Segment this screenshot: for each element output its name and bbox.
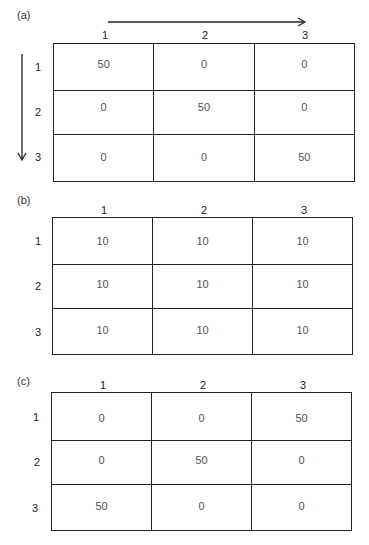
- panel-label: (a): [17, 9, 30, 21]
- row-header: 1: [35, 235, 41, 247]
- cell: 50: [254, 135, 354, 182]
- table-row: 10 10 10: [53, 265, 353, 309]
- cell: 0: [254, 91, 354, 135]
- column-header: 1: [101, 204, 107, 216]
- cell: 10: [153, 265, 253, 309]
- cell: 10: [253, 309, 353, 355]
- cell: 10: [253, 265, 353, 309]
- column-header: 2: [201, 204, 207, 216]
- column-header: 1: [100, 379, 106, 391]
- cell: 50: [252, 393, 352, 441]
- cell: 10: [153, 218, 253, 265]
- matrix-table: 10 10 10 10 10 10 10 10 10: [52, 217, 353, 355]
- cell: 0: [52, 393, 152, 441]
- row-header: 3: [35, 151, 41, 163]
- row-header: 1: [33, 411, 39, 423]
- right-arrow-icon: [108, 17, 308, 27]
- cell: 0: [154, 135, 254, 182]
- down-arrow-icon: [17, 54, 27, 162]
- table-row: 50 0 0: [54, 44, 355, 91]
- matrix-table: 50 0 0 0 50 0 0 0 50: [53, 43, 355, 182]
- panel-label: (c): [17, 375, 30, 387]
- cell: 50: [54, 44, 154, 91]
- cell: 0: [152, 393, 252, 441]
- cell: 50: [52, 485, 152, 531]
- column-header: 3: [300, 379, 306, 391]
- cell: 10: [153, 309, 253, 355]
- row-header: 3: [32, 502, 38, 514]
- cell: 0: [54, 135, 154, 182]
- cell: 50: [154, 91, 254, 135]
- panel-b: (b) 1 2 3 1 2 3 10 10 10 10 10 10 10 10 …: [0, 185, 369, 365]
- table-row: 0 0 50: [52, 393, 352, 441]
- row-header: 1: [35, 61, 41, 73]
- cell: 10: [53, 218, 153, 265]
- panel-c: (c) 1 2 3 1 2 3 0 0 50 0 50 0 50 0 0: [0, 365, 369, 545]
- column-header: 1: [102, 29, 108, 41]
- table-row: 50 0 0: [52, 485, 352, 531]
- column-header: 3: [301, 204, 307, 216]
- table-row: 10 10 10: [53, 309, 353, 355]
- cell: 0: [54, 91, 154, 135]
- panel-a: (a) 1 2 3 1 2 3 50 0 0 0 50 0 0 0 50: [0, 0, 369, 185]
- table-row: 0 50 0: [52, 441, 352, 485]
- cell: 0: [52, 441, 152, 485]
- row-header: 2: [35, 106, 41, 118]
- matrix-table: 0 0 50 0 50 0 50 0 0: [51, 392, 352, 531]
- cell: 10: [53, 265, 153, 309]
- row-header: 2: [35, 280, 41, 292]
- cell: 10: [253, 218, 353, 265]
- table-row: 10 10 10: [53, 218, 353, 265]
- cell: 0: [152, 485, 252, 531]
- panel-label: (b): [17, 194, 30, 206]
- row-header: 2: [34, 456, 40, 468]
- column-header: 2: [200, 379, 206, 391]
- column-header: 3: [302, 29, 308, 41]
- cell: 0: [252, 485, 352, 531]
- cell: 0: [254, 44, 354, 91]
- column-header: 2: [202, 29, 208, 41]
- cell: 10: [53, 309, 153, 355]
- cell: 50: [152, 441, 252, 485]
- table-row: 0 50 0: [54, 91, 355, 135]
- table-row: 0 0 50: [54, 135, 355, 182]
- row-header: 3: [35, 326, 41, 338]
- cell: 0: [154, 44, 254, 91]
- cell: 0: [252, 441, 352, 485]
